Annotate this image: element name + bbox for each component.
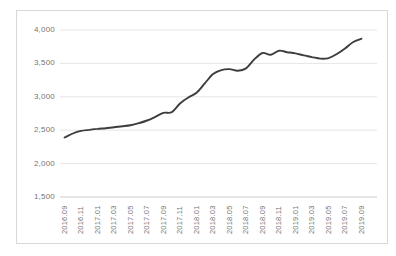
x-tick-label: 2018.03 [209, 205, 217, 234]
x-tick-label: 2019.01 [292, 205, 300, 234]
y-tick-label: 2,500 [18, 125, 55, 135]
x-tick-label: 2018.09 [259, 205, 267, 234]
y-tick-label: 3,500 [18, 58, 55, 68]
x-tick-label: 2018.01 [193, 205, 201, 234]
x-tick-label: 2016.11 [77, 206, 85, 234]
y-tick-label: 2,000 [18, 159, 55, 169]
x-tick-label: 2018.05 [226, 205, 234, 234]
x-tick-label: 2019.05 [325, 205, 333, 234]
x-tick-label: 2019.03 [308, 205, 316, 234]
y-tick-label: 4,000 [18, 25, 55, 35]
x-tick-label: 2017.09 [160, 205, 168, 234]
x-tick-label: 2016.09 [61, 205, 69, 234]
x-tick-label: 2018.07 [242, 205, 250, 234]
x-tick-label: 2017.05 [127, 205, 135, 234]
chart-screenshot: 4,0003,5003,0002,5002,0001,500 2016.0920… [0, 0, 396, 256]
x-tick-label: 2017.11 [176, 206, 184, 234]
x-tick-label: 2017.07 [143, 205, 151, 234]
y-tick-label: 3,000 [18, 92, 55, 102]
x-tick-label: 2019.09 [358, 205, 366, 234]
x-tick-label: 2019.07 [341, 205, 349, 234]
x-tick-label: 2017.01 [94, 205, 102, 234]
x-tick-label: 2018.11 [275, 206, 283, 234]
series-line [65, 39, 362, 138]
x-tick-label: 2017.03 [110, 205, 118, 234]
y-tick-label: 1,500 [18, 192, 55, 202]
